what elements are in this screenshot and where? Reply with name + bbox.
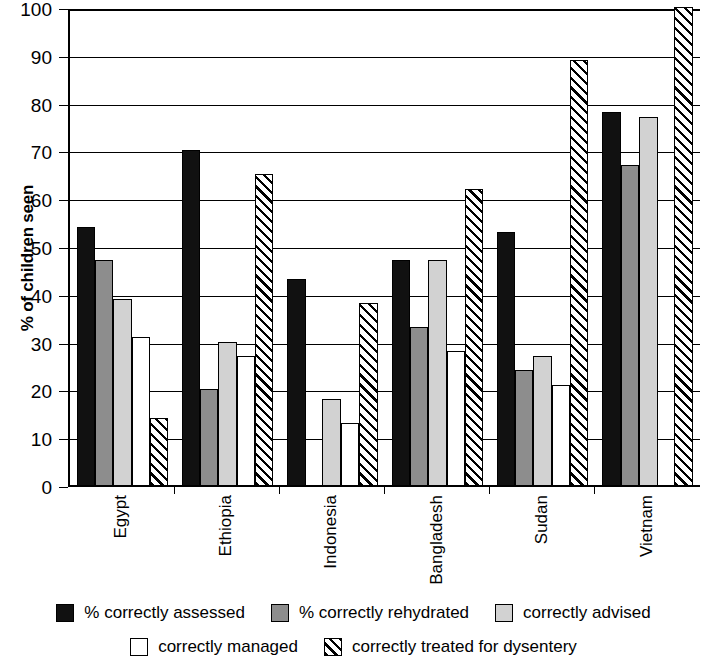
x-label-cell: Vietnam bbox=[595, 492, 700, 587]
y-tick-0 bbox=[59, 487, 68, 488]
bar-group-sudan bbox=[490, 9, 595, 485]
bar-bangladesh-advised bbox=[428, 260, 446, 485]
bar-ethiopia-managed bbox=[237, 356, 255, 485]
legend-item: % correctly assessed bbox=[56, 603, 245, 623]
x-label-cell: Sudan bbox=[489, 492, 594, 587]
x-axis-category-labels: EgyptEthiopiaIndonesiaBangladeshSudanVie… bbox=[68, 492, 700, 587]
bar-bangladesh-managed bbox=[447, 351, 465, 485]
bar-sudan-dysentery bbox=[570, 60, 588, 485]
y-tick-100 bbox=[59, 9, 68, 10]
bar-indonesia-advised bbox=[322, 399, 341, 485]
bars bbox=[595, 9, 700, 485]
legend-swatch-solid-dark-gray bbox=[271, 604, 289, 622]
bar-vietnam-advised bbox=[639, 117, 658, 485]
legend-row-2: correctly managedcorrectly treated for d… bbox=[0, 630, 707, 664]
bar-sudan-advised bbox=[533, 356, 551, 485]
y-tick-90 bbox=[59, 57, 68, 58]
bar-vietnam-dysentery bbox=[674, 7, 693, 485]
x-tick-label-bangladesh: Bangladesh bbox=[427, 495, 447, 585]
y-tick-60 bbox=[59, 200, 68, 201]
legend-item: correctly advised bbox=[495, 603, 651, 623]
legend-label: correctly managed bbox=[158, 637, 298, 657]
bars bbox=[175, 9, 280, 485]
bar-egypt-managed bbox=[132, 337, 150, 485]
x-tick-label-vietnam: Vietnam bbox=[637, 495, 657, 557]
bar-group-vietnam bbox=[595, 9, 700, 485]
bar-indonesia-dysentery bbox=[359, 303, 378, 485]
x-label-cell: Egypt bbox=[68, 492, 173, 587]
legend: % correctly assessed% correctly rehydrat… bbox=[0, 596, 707, 664]
bar-ethiopia-rehydrated bbox=[200, 389, 218, 485]
legend-item: % correctly rehydrated bbox=[271, 603, 469, 623]
x-label-cell: Indonesia bbox=[279, 492, 384, 587]
y-tick-30 bbox=[59, 344, 68, 345]
legend-label: correctly advised bbox=[523, 603, 651, 623]
bar-sudan-managed bbox=[552, 385, 570, 485]
bar-egypt-advised bbox=[113, 299, 131, 485]
bar-group-bangladesh bbox=[385, 9, 490, 485]
bar-sudan-assessed bbox=[497, 232, 515, 485]
bar-egypt-rehydrated bbox=[95, 260, 113, 485]
bar-bangladesh-assessed bbox=[392, 260, 410, 485]
bar-egypt-assessed bbox=[77, 227, 95, 485]
legend-item: correctly managed bbox=[130, 637, 298, 657]
x-label-cell: Bangladesh bbox=[384, 492, 489, 587]
bar-indonesia-assessed bbox=[287, 279, 306, 485]
bars bbox=[385, 9, 490, 485]
legend-label: correctly treated for dysentery bbox=[352, 637, 577, 657]
y-tick-10 bbox=[59, 439, 68, 440]
x-tick-label-ethiopia: Ethiopia bbox=[216, 495, 236, 556]
legend-item: correctly treated for dysentery bbox=[324, 637, 577, 657]
legend-swatch-solid-light-gray bbox=[495, 604, 513, 622]
bar-group-egypt bbox=[70, 9, 175, 485]
legend-row-1: % correctly assessed% correctly rehydrat… bbox=[0, 596, 707, 630]
y-tick-40 bbox=[59, 296, 68, 297]
bars bbox=[280, 9, 385, 485]
bar-bangladesh-dysentery bbox=[465, 189, 483, 485]
bar-ethiopia-advised bbox=[218, 342, 236, 485]
legend-swatch-solid-black bbox=[56, 604, 74, 622]
legend-label: % correctly rehydrated bbox=[299, 603, 469, 623]
bar-bangladesh-rehydrated bbox=[410, 327, 428, 485]
y-tick-20 bbox=[59, 391, 68, 392]
plot-area bbox=[68, 9, 700, 487]
bar-vietnam-assessed bbox=[602, 112, 621, 485]
bar-indonesia-managed bbox=[341, 423, 360, 485]
bar-sudan-rehydrated bbox=[515, 370, 533, 485]
x-tick-label-indonesia: Indonesia bbox=[321, 495, 341, 569]
y-axis-ticks bbox=[0, 9, 68, 487]
bar-ethiopia-assessed bbox=[182, 150, 200, 485]
bar-egypt-dysentery bbox=[150, 418, 168, 485]
bars bbox=[490, 9, 595, 485]
bars bbox=[70, 9, 175, 485]
bar-vietnam-rehydrated bbox=[621, 165, 640, 485]
y-tick-70 bbox=[59, 152, 68, 153]
legend-swatch-solid-white bbox=[130, 638, 148, 656]
bar-ethiopia-dysentery bbox=[255, 174, 273, 485]
legend-label: % correctly assessed bbox=[84, 603, 245, 623]
bar-group-ethiopia bbox=[175, 9, 280, 485]
bar-groups bbox=[70, 9, 700, 485]
bar-group-indonesia bbox=[280, 9, 385, 485]
x-tick-label-egypt: Egypt bbox=[111, 495, 131, 538]
x-label-cell: Ethiopia bbox=[173, 492, 278, 587]
legend-swatch-diagonal-hatch bbox=[324, 638, 342, 656]
x-tick-label-sudan: Sudan bbox=[532, 495, 552, 544]
y-tick-50 bbox=[59, 248, 68, 249]
bar-chart: % of children seen 010203040506070809010… bbox=[0, 0, 707, 668]
y-tick-80 bbox=[59, 105, 68, 106]
